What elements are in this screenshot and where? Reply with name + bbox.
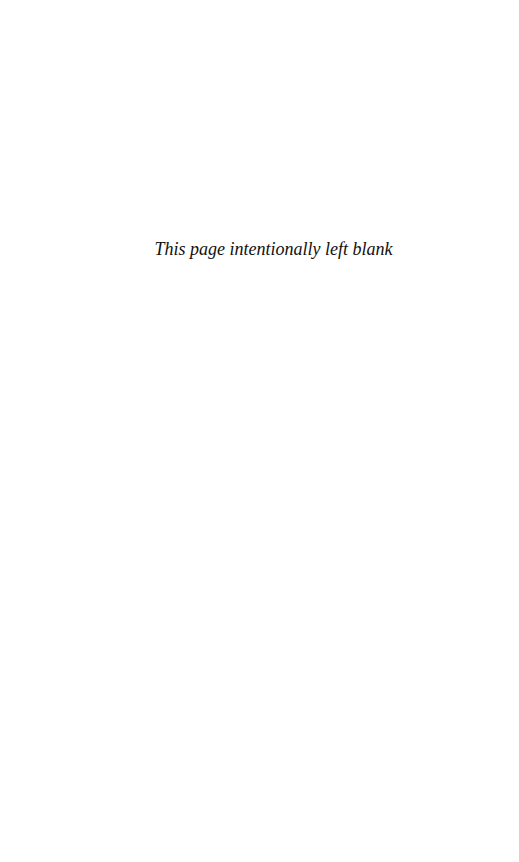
blank-page-notice: This page intentionally left blank: [0, 238, 519, 260]
blank-page: This page intentionally left blank: [0, 0, 519, 862]
